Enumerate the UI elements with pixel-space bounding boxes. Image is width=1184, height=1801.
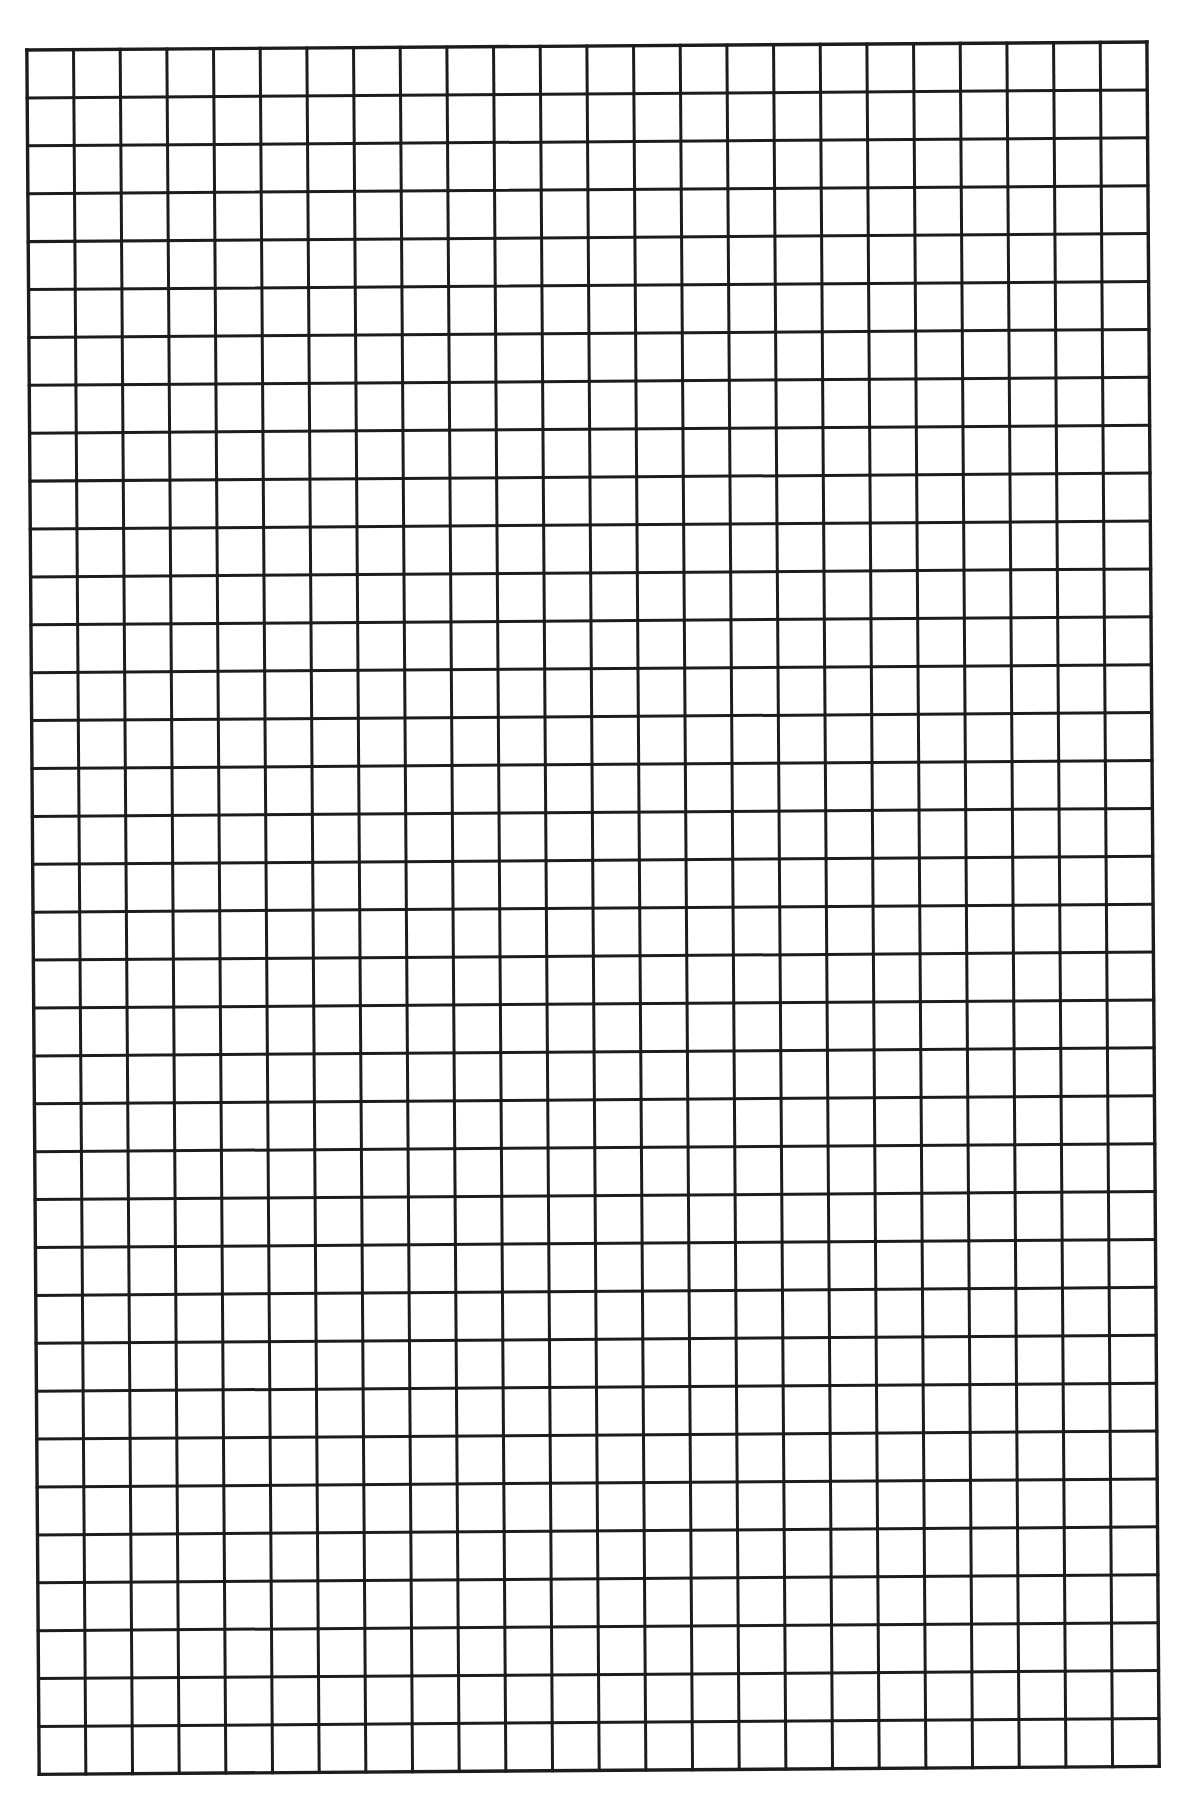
- grid-lines: [27, 42, 1159, 1774]
- graph-paper-page: [0, 0, 1184, 1801]
- square-grid: [27, 42, 1159, 1774]
